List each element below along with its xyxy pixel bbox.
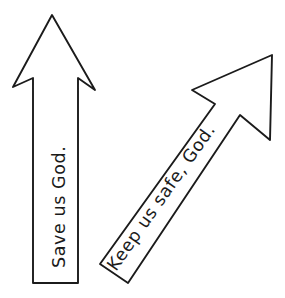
- drawing-canvas: Save us God. Keep us safe, God.: [0, 0, 285, 298]
- left-arrow-caption: Save us God.: [49, 146, 69, 268]
- arrows-illustration: Save us God. Keep us safe, God.: [0, 0, 285, 298]
